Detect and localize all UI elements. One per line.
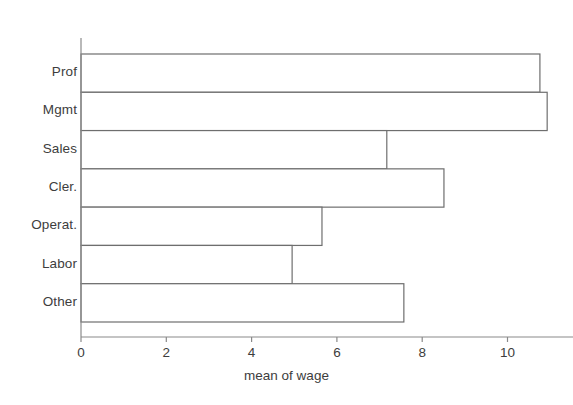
x-tick-label-0: 0 bbox=[51, 345, 111, 360]
x-tick-label-2: 2 bbox=[136, 345, 196, 360]
x-tick-label-6: 6 bbox=[307, 345, 367, 360]
x-tick-label-8: 8 bbox=[392, 345, 452, 360]
bars-group bbox=[81, 54, 547, 322]
horizontal-bar-chart: ProfMgmtSalesCler.Operat.LaborOther 0246… bbox=[0, 0, 573, 405]
category-label-other: Other bbox=[43, 294, 77, 309]
bar-sales bbox=[81, 131, 387, 169]
category-label-sales: Sales bbox=[43, 141, 77, 156]
category-label-operat: Operat. bbox=[31, 217, 77, 232]
bar-prof bbox=[81, 54, 540, 92]
bar-cler bbox=[81, 169, 444, 207]
x-axis-title: mean of wage bbox=[0, 368, 573, 383]
bar-labor bbox=[81, 245, 292, 283]
category-label-mgmt: Mgmt bbox=[43, 102, 77, 117]
x-tick-label-10: 10 bbox=[478, 345, 538, 360]
category-label-cler: Cler. bbox=[49, 179, 77, 194]
bar-other bbox=[81, 284, 404, 322]
bar-operat bbox=[81, 207, 322, 245]
bar-mgmt bbox=[81, 92, 547, 130]
x-tick-label-4: 4 bbox=[222, 345, 282, 360]
category-label-prof: Prof bbox=[52, 64, 77, 79]
category-label-labor: Labor bbox=[42, 256, 77, 271]
